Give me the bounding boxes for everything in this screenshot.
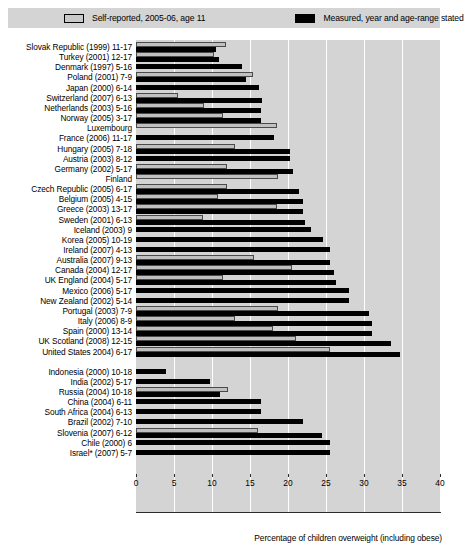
bar-measured <box>136 135 274 140</box>
category-label: China (2004) 6-11 <box>67 397 132 407</box>
bar-row <box>136 265 440 275</box>
light-swatch-icon <box>64 14 84 23</box>
axis-tick-label: 5 <box>172 478 177 488</box>
bar-row <box>136 215 440 225</box>
bar-row <box>136 174 440 184</box>
category-label: Norway (2005) 3-17 <box>60 113 132 123</box>
bar-row <box>136 235 440 245</box>
category-label: Netherlands (2003) 5-16 <box>44 103 132 113</box>
bar-measured <box>136 227 311 232</box>
bar-self-reported <box>136 174 278 179</box>
category-label: Austria (2003) 8-12 <box>63 154 132 164</box>
bar-row <box>136 194 440 204</box>
axis-tick-label: 40 <box>435 478 444 488</box>
category-label: Russia (2004) 10-18 <box>59 387 132 397</box>
bar-row <box>136 133 440 143</box>
category-label: Portugal (2003) 7-9 <box>62 306 132 316</box>
bar-row <box>136 438 440 448</box>
axis-tick-label: 10 <box>207 478 216 488</box>
category-label: UK Scotland (2008) 12-15 <box>38 336 132 346</box>
bar-row <box>136 123 440 133</box>
axis-tick <box>326 474 327 477</box>
category-label: Korea (2005) 10-19 <box>62 235 132 245</box>
bar-measured <box>136 156 290 161</box>
category-label: New Zealand (2002) 5-14 <box>40 296 132 306</box>
bar-row <box>136 225 440 235</box>
category-label: Turkey (2001) 12-17 <box>59 52 132 62</box>
bar-measured <box>136 288 349 293</box>
category-label: Finland <box>105 174 132 184</box>
bar-row <box>136 255 440 265</box>
chart-legend: Self-reported, 2005-06, age 11 Measured,… <box>8 8 440 28</box>
category-label: Greece (2003) 13-17 <box>57 204 132 214</box>
category-label: Germany (2002) 5-17 <box>55 164 132 174</box>
x-axis: 0510152025303540 <box>136 474 441 490</box>
bar-row <box>136 83 440 93</box>
category-label: Spain (2000) 13-14 <box>63 326 132 336</box>
axis-tick-label: 35 <box>397 478 406 488</box>
bar-row <box>136 417 440 427</box>
axis-tick <box>440 474 441 477</box>
bar-measured <box>136 85 259 90</box>
bar-row <box>136 144 440 154</box>
axis-tick <box>402 474 403 477</box>
bar-measured <box>136 450 330 455</box>
bar-row <box>136 428 440 438</box>
legend-label-self-reported: Self-reported, 2005-06, age 11 <box>92 13 205 23</box>
axis-tick <box>250 474 251 477</box>
bar-row <box>136 154 440 164</box>
bar-row <box>136 52 440 62</box>
axis-tick <box>136 474 137 477</box>
bar-row <box>136 306 440 316</box>
bar-measured <box>136 379 210 384</box>
bar-row <box>136 296 440 306</box>
category-label: Luxembourg <box>87 123 132 133</box>
category-label: Sweden (2001) 6-13 <box>59 215 132 225</box>
category-label: Slovenia (2007) 6-12 <box>57 428 132 438</box>
category-label: Canada (2004) 12-17 <box>55 265 132 275</box>
category-label: Hungary (2005) 7-18 <box>57 144 132 154</box>
axis-tick-label: 20 <box>283 478 292 488</box>
bar-row <box>136 448 440 458</box>
axis-tick <box>288 474 289 477</box>
category-label: Ireland (2007) 4-13 <box>63 245 132 255</box>
bar-measured <box>136 352 400 357</box>
category-label: United States 2004) 6-17 <box>42 347 132 357</box>
category-label: Poland (2001) 7-9 <box>67 72 132 82</box>
bar-measured <box>136 237 323 242</box>
category-label: Switzerland (2007) 6-13 <box>46 93 132 103</box>
axis-tick-label: 25 <box>321 478 330 488</box>
category-label: UK England (2004) 5-17 <box>45 275 132 285</box>
bar-row <box>136 72 440 82</box>
bar-measured <box>136 399 261 404</box>
bar-row <box>136 326 440 336</box>
bar-measured <box>136 419 303 424</box>
bar-row <box>136 245 440 255</box>
bar-measured <box>136 369 166 374</box>
category-label: Chile (2000) 6 <box>81 438 132 448</box>
bar-row <box>136 204 440 214</box>
bar-row <box>136 367 440 377</box>
bar-row <box>136 42 440 52</box>
category-label: Japan (2000) 6-14 <box>66 83 132 93</box>
category-label: Mexico (2006) 5-17 <box>62 286 132 296</box>
bar-measured <box>136 247 330 252</box>
dark-swatch-icon <box>295 14 315 23</box>
legend-item-self-reported: Self-reported, 2005-06, age 11 <box>64 13 205 23</box>
category-label: Australia (2007) 9-13 <box>57 255 132 265</box>
category-label: Belgium (2005) 4-15 <box>59 194 132 204</box>
bar-row <box>136 62 440 72</box>
bar-row <box>136 336 440 346</box>
category-label: Iceland (2003) 9 <box>74 225 132 235</box>
bar-measured <box>136 298 349 303</box>
axis-tick-label: 30 <box>359 478 368 488</box>
plot-area <box>136 40 441 513</box>
legend-label-measured: Measured, year and age-range stated <box>323 13 463 23</box>
bar-row <box>136 113 440 123</box>
bar-row <box>136 397 440 407</box>
category-label: Slovak Republic (1999) 11-17 <box>26 42 132 52</box>
bar-row <box>136 387 440 397</box>
x-axis-title: Percentage of children overweight (inclu… <box>254 533 442 543</box>
bar-row <box>136 377 440 387</box>
bar-row <box>136 275 440 285</box>
